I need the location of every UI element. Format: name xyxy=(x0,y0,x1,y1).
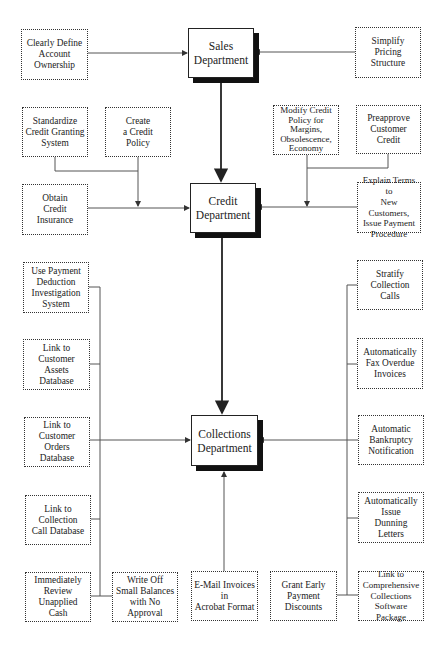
node-create-credit-policy: Create a Credit Policy xyxy=(105,107,171,157)
node-label: Automatically Fax Overdue Invoices xyxy=(363,347,417,380)
node-label: Modify Credit Policy for Margins, Obsole… xyxy=(280,106,332,154)
node-preapprove-customer-credit: Preapprove Customer Credit xyxy=(356,105,421,154)
credit-department-label: Credit Department xyxy=(196,194,250,222)
node-label: Explain Terms to New Customers, Issue Pa… xyxy=(360,175,418,240)
node-label: Use Payment Deduction Investigation Syst… xyxy=(31,266,81,310)
node-label: Stratify Collection Calls xyxy=(370,269,409,302)
credit-department: Credit Department xyxy=(190,183,256,233)
node-fax-overdue-invoices: Automatically Fax Overdue Invoices xyxy=(357,338,423,389)
node-label: Simplify Pricing Structure xyxy=(371,36,405,69)
node-clearly-define-account-ownership: Clearly Define Account Ownership xyxy=(21,29,88,80)
node-standardize-credit-granting: Standardize Credit Granting System xyxy=(22,107,88,157)
node-label: Write Off Small Balances with No Approva… xyxy=(116,575,174,619)
node-write-off-small-balances: Write Off Small Balances with No Approva… xyxy=(112,572,178,622)
node-label: Link to Comprehensive Collections Softwa… xyxy=(361,569,421,623)
node-label: Obtain Credit Insurance xyxy=(37,193,73,226)
node-label: Immediately Review Unapplied Cash xyxy=(28,575,88,619)
node-label: E-Mail Invoices in Acrobat Format xyxy=(194,580,255,613)
node-customer-assets-database: Link to Customer Assets Database xyxy=(23,339,90,390)
node-email-invoices-acrobat: E-Mail Invoices in Acrobat Format xyxy=(191,571,258,621)
node-label: Automatic Bankruptcy Notification xyxy=(368,424,413,457)
node-modify-credit-policy: Modify Credit Policy for Margins, Obsole… xyxy=(273,105,339,155)
collections-department-label: Collections Department xyxy=(197,427,251,455)
node-label: Automatically Issue Dunning Letters xyxy=(361,496,421,540)
node-label: Preapprove Customer Credit xyxy=(367,113,410,146)
node-label: Link to Customer Orders Database xyxy=(27,420,87,464)
node-stratify-collection-calls: Stratify Collection Calls xyxy=(357,260,423,310)
connector-lines xyxy=(0,0,446,647)
node-issue-dunning-letters: Automatically Issue Dunning Letters xyxy=(358,492,424,543)
node-payment-deduction-system: Use Payment Deduction Investigation Syst… xyxy=(23,262,89,313)
node-label: Link to Collection Call Database xyxy=(32,504,84,537)
node-label: Grant Early Payment Discounts xyxy=(282,580,326,613)
sales-department: Sales Department xyxy=(188,28,254,78)
node-simplify-pricing-structure: Simplify Pricing Structure xyxy=(355,27,421,78)
node-collection-call-database: Link to Collection Call Database xyxy=(25,495,91,545)
node-label: Clearly Define Account Ownership xyxy=(27,38,82,71)
node-bankruptcy-notification: Automatic Bankruptcy Notification xyxy=(358,415,424,465)
node-review-unapplied-cash: Immediately Review Unapplied Cash xyxy=(25,572,91,622)
node-label: Create a Credit Policy xyxy=(123,116,153,149)
sales-department-label: Sales Department xyxy=(194,39,248,67)
node-obtain-credit-insurance: Obtain Credit Insurance xyxy=(22,184,88,235)
node-comprehensive-collections-software: Link to Comprehensive Collections Softwa… xyxy=(358,571,424,621)
node-label: Standardize Credit Granting System xyxy=(25,116,84,149)
node-customer-orders-database: Link to Customer Orders Database xyxy=(24,417,90,467)
node-label: Link to Customer Assets Database xyxy=(26,343,87,387)
node-grant-early-payment-discounts: Grant Early Payment Discounts xyxy=(270,571,337,621)
collections-department: Collections Department xyxy=(191,415,258,466)
node-explain-terms: Explain Terms to New Customers, Issue Pa… xyxy=(357,182,421,233)
